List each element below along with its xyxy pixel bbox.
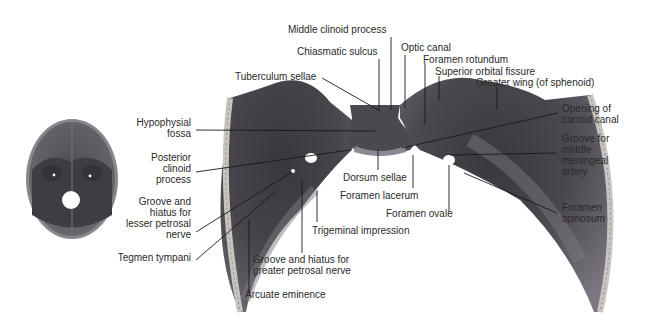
label-optic-canal: Optic canal	[401, 42, 451, 53]
label-arcuate-eminence: Arcuate eminence	[245, 289, 326, 300]
label-middle-clinoid-process: Middle clinoid process	[288, 24, 386, 35]
skull-thumbnail	[26, 119, 118, 239]
label-foramen-ovale: Foramen ovale	[386, 208, 453, 219]
label-hypophysial-fossa: Hypophysial fossa	[137, 117, 191, 139]
label-greater-wing: Greater wing (of sphenoid)	[476, 77, 594, 88]
label-trigeminal-impression: Trigeminal impression	[312, 225, 409, 236]
label-foramen-rotundum: Foramen rotundum	[423, 54, 508, 65]
label-chiasmatic-sulcus: Chiasmatic sulcus	[297, 46, 378, 57]
label-opening-carotid-canal: Opening of carotid canal	[562, 103, 619, 125]
label-groove-lesser-petrosal: Groove and hiatus for lesser petrosal ne…	[126, 196, 191, 240]
label-groove-middle-meningeal: Groove for middle meningeal artery	[562, 133, 609, 177]
fossa-left-half	[220, 80, 358, 312]
label-foramen-spinosum: Foramen spinosum	[562, 202, 605, 224]
label-tuberculum-sellae: Tuberculum sellae	[235, 71, 316, 82]
label-groove-greater-petrosal: Groove and hiatus for greater petrosal n…	[253, 254, 351, 276]
label-foramen-lacerum: Foramen lacerum	[340, 190, 418, 201]
label-tegmen-tympani: Tegmen tympani	[118, 252, 191, 263]
label-posterior-clinoid-process: Posterior clinoid process	[151, 152, 191, 185]
label-dorsum-sellae: Dorsum sellae	[343, 172, 407, 183]
label-superior-orbital-fissure: Superior orbital fissure	[435, 66, 535, 77]
